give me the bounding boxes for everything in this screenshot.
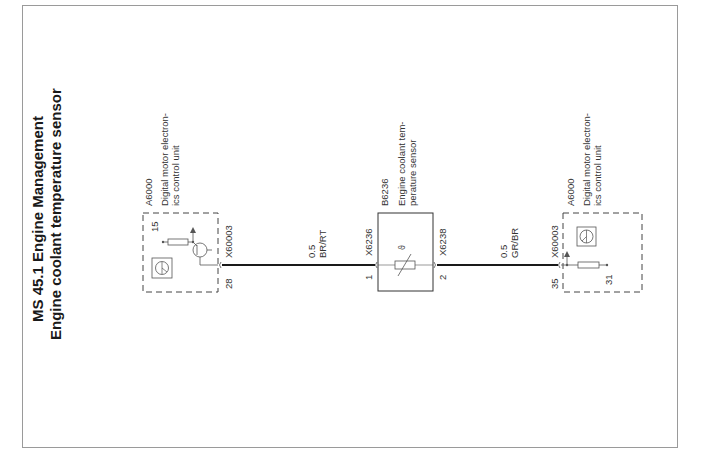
ecu-symbol-icon [152, 258, 172, 278]
pull-up-resistor-icon [162, 227, 196, 245]
connector-x6236-label: X6236 [363, 229, 374, 256]
title-line-1: MS 45.1 Engine Management [29, 116, 46, 322]
sensor-id: B6236 [379, 179, 390, 206]
wire-1-gauge: 0.5 [306, 245, 317, 258]
ecu-left-desc-1: Digital motor electron- [159, 113, 170, 206]
transistor-icon [193, 242, 218, 265]
thermistor-icon: ϑ [395, 245, 415, 276]
pin-28-label: 28 [223, 278, 234, 289]
pin-31-label: 31 [603, 274, 614, 285]
sensor-desc-1: Engine coolant tem- [396, 122, 407, 207]
sensor-b6236: ϑ 1 X6236 2 X6238 B6236 Engine coolant t… [363, 122, 448, 292]
pin-1-label: 1 [363, 275, 374, 280]
connector-x6236-icon [376, 262, 378, 268]
ecu-right-desc-2: ics control unit [592, 145, 603, 206]
connector-right-icon [559, 262, 561, 268]
ecu-symbol-icon [577, 227, 596, 246]
ecu-right-desc-1: Digital motor electron- [581, 113, 592, 206]
title-line-2: Engine coolant temperature sensor [47, 88, 64, 340]
wiring-diagram: MS 45.1 Engine Management Engine coolant… [0, 0, 702, 464]
sensor-boundary [378, 213, 433, 291]
wire-2-gauge: 0.5 [498, 245, 509, 258]
pin-15-label: 15 [149, 221, 160, 232]
wire-1-color: BR/RT [317, 229, 328, 258]
connector-x60003-left-label: X60003 [223, 225, 234, 258]
wire-2-color: GR/BR [509, 228, 520, 258]
ecu-right: 35 X60003 31 A6000 Digital motor electro… [549, 113, 642, 292]
diagram-title: MS 45.1 Engine Management Engine coolant… [29, 88, 64, 340]
ecu-left-id: A6000 [143, 179, 154, 206]
pin-2-label: 2 [437, 275, 448, 280]
ecu-left-desc-2: ics control unit [170, 145, 181, 206]
ecu-right-id: A6000 [565, 179, 576, 206]
connector-x60003-right-label: X60003 [549, 225, 560, 258]
sensor-desc-2: perature sensor [407, 139, 418, 206]
svg-text:ϑ: ϑ [398, 245, 407, 250]
pull-down-resistor-icon [561, 251, 608, 268]
connector-x6238-icon [434, 262, 436, 268]
ecu-left: 15 28 X60003 A6000 Digital motor electro… [143, 113, 234, 292]
connector-x6238-label: X6238 [437, 229, 448, 256]
pin-35-label: 35 [549, 278, 560, 289]
connector-left-icon [220, 262, 222, 268]
